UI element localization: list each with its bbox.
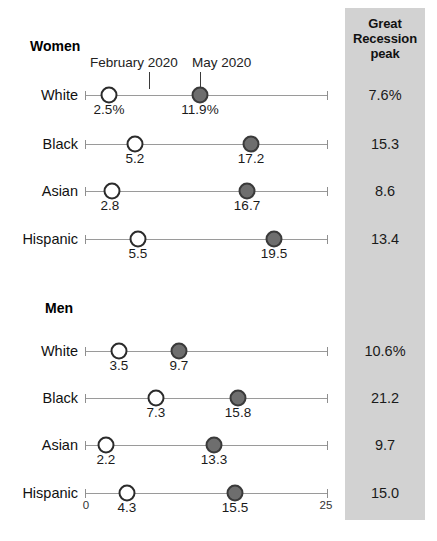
row-label-men-asian: Asian xyxy=(0,437,78,453)
value-feb-2020-women-asian: 2.8 xyxy=(101,198,120,213)
dot-feb-2020-women-asian[interactable] xyxy=(104,183,121,200)
annotation-may-2020: May 2020 xyxy=(192,55,251,70)
dot-feb-2020-women-black[interactable] xyxy=(127,136,144,153)
axis-cap-left-men-white xyxy=(85,347,86,356)
value-may-2020-men-hispanic: 15.5 xyxy=(222,500,248,515)
dot-may-2020-men-white[interactable] xyxy=(171,343,188,360)
value-feb-2020-men-asian: 2.2 xyxy=(97,452,116,467)
axis-cap-right-women-asian xyxy=(327,187,328,196)
dot-may-2020-men-black[interactable] xyxy=(230,390,247,407)
axis-cap-left-men-hispanic xyxy=(85,489,86,498)
dot-may-2020-women-black[interactable] xyxy=(243,136,260,153)
value-feb-2020-men-white: 3.5 xyxy=(110,358,129,373)
axis-cap-right-men-black xyxy=(327,394,328,403)
value-may-2020-men-black: 15.8 xyxy=(225,405,251,420)
axis-line-women-hispanic xyxy=(85,239,327,240)
annotation-february-leader-line xyxy=(149,72,150,89)
value-may-2020-women-black: 17.2 xyxy=(238,151,264,166)
peak-value-men-white: 10.6% xyxy=(345,343,425,359)
row-label-women-asian: Asian xyxy=(0,183,78,199)
dot-may-2020-women-asian[interactable] xyxy=(239,183,256,200)
axis-cap-left-men-black xyxy=(85,394,86,403)
axis-cap-right-women-white xyxy=(327,91,328,100)
axis-line-women-black xyxy=(85,144,327,145)
dot-feb-2020-women-hispanic[interactable] xyxy=(130,231,147,248)
annotation-february-2020: February 2020 xyxy=(90,55,178,70)
value-may-2020-men-asian: 13.3 xyxy=(201,452,227,467)
axis-cap-left-women-white xyxy=(85,91,86,100)
axis-cap-left-women-black xyxy=(85,140,86,149)
value-may-2020-women-hispanic: 19.5 xyxy=(261,246,287,261)
row-label-men-black: Black xyxy=(0,390,78,406)
dot-may-2020-men-asian[interactable] xyxy=(206,437,223,454)
row-label-women-hispanic: Hispanic xyxy=(0,231,78,247)
axis-cap-right-women-hispanic xyxy=(327,235,328,244)
axis-cap-right-men-hispanic xyxy=(327,489,328,498)
value-feb-2020-women-hispanic: 5.5 xyxy=(129,246,148,261)
value-may-2020-women-white: 11.9% xyxy=(181,102,218,117)
peak-value-men-black: 21.2 xyxy=(345,390,425,406)
value-feb-2020-men-hispanic: 4.3 xyxy=(118,500,137,515)
peak-value-women-black: 15.3 xyxy=(345,136,425,152)
peak-value-women-hispanic: 13.4 xyxy=(345,231,425,247)
value-may-2020-women-asian: 16.7 xyxy=(234,198,260,213)
axis-cap-right-men-white xyxy=(327,347,328,356)
row-label-men-hispanic: Hispanic xyxy=(0,485,78,501)
peak-value-men-asian: 9.7 xyxy=(345,437,425,453)
dot-feb-2020-men-hispanic[interactable] xyxy=(119,485,136,502)
dot-may-2020-men-hispanic[interactable] xyxy=(227,485,244,502)
row-label-women-white: White xyxy=(0,87,78,103)
row-label-men-white: White xyxy=(0,343,78,359)
dot-may-2020-women-hispanic[interactable] xyxy=(266,231,283,248)
axis-cap-left-men-asian xyxy=(85,441,86,450)
axis-cap-left-women-asian xyxy=(85,187,86,196)
axis-line-men-black xyxy=(85,398,327,399)
value-may-2020-men-white: 9.7 xyxy=(170,358,189,373)
peak-value-women-asian: 8.6 xyxy=(345,183,425,199)
axis-tick-min: 0 xyxy=(83,499,89,511)
axis-cap-left-women-hispanic xyxy=(85,235,86,244)
axis-cap-right-women-black xyxy=(327,140,328,149)
great-recession-peak-header: Great Recession peak xyxy=(345,16,425,61)
dot-feb-2020-men-white[interactable] xyxy=(111,343,128,360)
row-label-women-black: Black xyxy=(0,136,78,152)
value-feb-2020-women-white: 2.5% xyxy=(94,102,125,117)
axis-cap-right-men-asian xyxy=(327,441,328,450)
dot-feb-2020-men-asian[interactable] xyxy=(98,437,115,454)
dot-feb-2020-women-white[interactable] xyxy=(101,87,118,104)
axis-line-women-asian xyxy=(85,191,327,192)
dot-feb-2020-men-black[interactable] xyxy=(148,390,165,407)
value-feb-2020-women-black: 5.2 xyxy=(126,151,145,166)
peak-header-line-2: Recession xyxy=(345,31,425,46)
dot-may-2020-women-white[interactable] xyxy=(192,87,209,104)
group-heading-men: Men xyxy=(45,300,73,316)
peak-value-women-white: 7.6% xyxy=(345,87,425,103)
group-heading-women: Women xyxy=(30,38,80,54)
peak-value-men-hispanic: 15.0 xyxy=(345,485,425,501)
axis-tick-max: 25 xyxy=(320,499,333,511)
peak-header-line-3: peak xyxy=(345,46,425,61)
peak-header-line-1: Great xyxy=(345,16,425,31)
chart-figure: Great Recession peak Women Men February … xyxy=(0,0,437,541)
value-feb-2020-men-black: 7.3 xyxy=(147,405,166,420)
